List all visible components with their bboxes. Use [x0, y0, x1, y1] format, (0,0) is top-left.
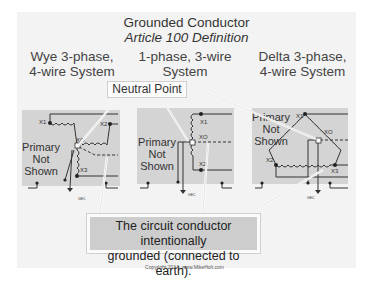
svg-text:XO: XO [199, 134, 208, 140]
definition-leaders [100, 143, 323, 213]
neutral-point-leaders [78, 92, 316, 146]
svg-text:GEC: GEC [307, 196, 315, 200]
svg-text:X2: X2 [266, 157, 274, 163]
svg-text:X2: X2 [100, 121, 108, 127]
definition-callout: The circuit conductor intentionally grou… [86, 213, 261, 254]
svg-text:X3: X3 [80, 167, 88, 173]
neutral-point-callout: Neutral Point [107, 81, 187, 98]
svg-text:GEC: GEC [188, 193, 196, 197]
svg-text:X1: X1 [296, 113, 304, 119]
copyright: Copyright 2014, www.MikeHolt.com [0, 264, 369, 270]
single-phase-transformer-icon [140, 114, 232, 190]
definition-line1: The circuit conductor intentionally [90, 219, 257, 249]
svg-text:X1: X1 [200, 119, 208, 125]
definition-text: The circuit conductor intentionally grou… [90, 217, 257, 250]
svg-text:X1: X1 [39, 119, 47, 125]
delta-transformer-icon [255, 114, 348, 190]
svg-text:XO: XO [324, 129, 333, 135]
svg-text:X3: X3 [331, 168, 339, 174]
svg-text:GEC: GEC [78, 197, 86, 201]
